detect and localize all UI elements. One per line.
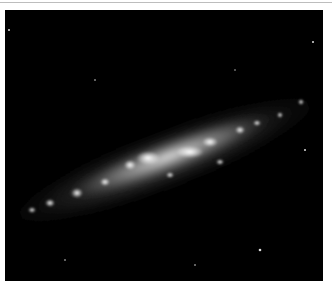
galaxy-svg (5, 10, 323, 281)
top-rule (0, 2, 332, 3)
galaxy-image: Grayscale astronomical image of an elong… (5, 10, 323, 281)
